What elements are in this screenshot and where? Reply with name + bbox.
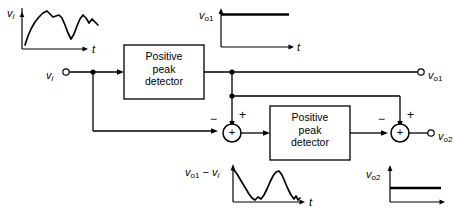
block-2-label: Positive peak detector (270, 111, 350, 149)
block-1-line-1: Positive (124, 50, 204, 63)
block-1-line-3: detector (124, 75, 204, 88)
circuit-wires (63, 45, 434, 160)
plot-vo2-ylabel: vo2 (366, 164, 380, 182)
plot-vi-trace (25, 11, 98, 45)
summing-junction-1-top-sign: + (239, 108, 246, 122)
output2-terminal-label: vo2 (438, 126, 452, 144)
block-1-line-2: peak (124, 63, 204, 76)
plot-vo1-minus-vi-xlabel: t (309, 196, 312, 208)
summing-junction-2-symbol: + (394, 126, 406, 138)
block-2-line-2: peak (270, 124, 350, 137)
summing-junction-1-symbol: + (226, 126, 238, 138)
block-2-line-1: Positive (270, 111, 350, 124)
plot-vo1-minus-vi-trace (234, 170, 300, 200)
output1-terminal (418, 69, 424, 75)
output2-terminal (428, 130, 434, 136)
block-2-line-3: detector (270, 136, 350, 149)
diagram-canvas: vi t vo1 t vo1 − vi t vo2 vi vo1 vo2 Pos… (0, 0, 454, 211)
plot-vo2-axes (388, 165, 445, 205)
summing-junction-2-top-sign: + (407, 108, 414, 122)
input-terminal-label: vi (46, 65, 53, 83)
block-1-label: Positive peak detector (124, 50, 204, 88)
plot-vi-ylabel: vi (7, 3, 14, 21)
summing-junction-1-left-sign: − (210, 112, 217, 126)
summing-junction-2-left-sign: − (378, 112, 385, 126)
input-terminal (63, 69, 69, 75)
plot-vi-xlabel: t (92, 43, 95, 55)
plot-vo1-xlabel: t (297, 41, 300, 53)
plot-vo1-minus-vi-ylabel: vo1 − vi (185, 162, 219, 180)
diagram-svg (0, 0, 454, 211)
plot-vo1-ylabel: vo1 (199, 5, 213, 23)
output1-terminal-label: vo1 (428, 65, 442, 83)
